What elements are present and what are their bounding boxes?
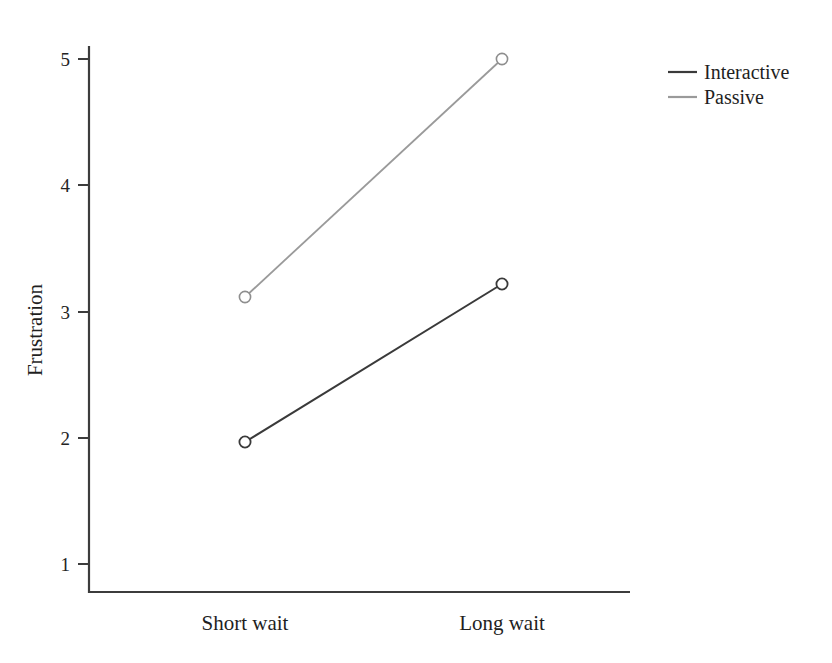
y-axis-title: Frustration — [23, 283, 47, 376]
x-category-label-short-wait: Short wait — [202, 611, 289, 635]
legend: Interactive Passive — [668, 61, 790, 108]
series-passive — [239, 53, 507, 302]
interaction-plot-figure: 5 4 3 2 1 Frustration Short wait Long wa… — [0, 0, 832, 663]
data-point-passive-long-wait — [496, 53, 507, 64]
series-passive-segment — [245, 59, 502, 297]
legend-label-passive: Passive — [704, 86, 764, 108]
series-interactive-segment — [245, 284, 502, 442]
data-point-interactive-short-wait — [239, 436, 250, 447]
y-tick-label-5: 5 — [61, 49, 71, 70]
chart-canvas: 5 4 3 2 1 Frustration Short wait Long wa… — [0, 0, 832, 663]
y-tick-label-1: 1 — [61, 554, 71, 575]
axis-group — [78, 46, 630, 593]
y-tick-label-3: 3 — [61, 302, 71, 323]
x-category-label-long-wait: Long wait — [459, 611, 545, 635]
series-interactive — [239, 278, 507, 447]
y-tick-label-2: 2 — [61, 428, 71, 449]
legend-label-interactive: Interactive — [704, 61, 790, 83]
data-point-interactive-long-wait — [496, 278, 507, 289]
y-tick-label-4: 4 — [61, 175, 71, 196]
data-point-passive-short-wait — [239, 291, 250, 302]
